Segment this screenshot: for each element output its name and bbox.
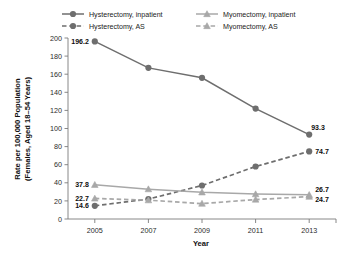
line-chart: Hysterectomy, inpatientMyomectomy, inpat…	[0, 0, 344, 260]
y-axis-tick-label: 0	[58, 215, 62, 224]
y-axis-tick-label: 80	[54, 142, 62, 151]
y-axis-tick-label: 120	[50, 106, 62, 115]
legend-marker-circle-icon	[70, 11, 76, 17]
y-axis-tick-label: 60	[54, 160, 62, 169]
data-point-label: 26.7	[315, 186, 329, 193]
series-data-point	[253, 105, 259, 111]
x-axis-tick-label: 2009	[194, 226, 210, 235]
x-axis-title: Year	[193, 239, 209, 248]
y-axis-title-line1: Rate per 100,000 Population	[13, 78, 22, 180]
data-point-label: 74.7	[315, 148, 329, 155]
legend-item-label: Hysterectomy, AS	[89, 23, 145, 31]
y-axis-tick-label: 160	[50, 70, 62, 79]
y-axis-tick-label: 140	[50, 88, 62, 97]
legend-item-label: Hysterectomy, inpatient	[89, 11, 163, 19]
x-axis-tick-label: 2005	[87, 226, 103, 235]
y-axis-title-line2: (Females, Aged 18–54 Years)	[23, 77, 32, 181]
series-data-point	[306, 148, 312, 154]
data-point-label: 14.6	[75, 202, 89, 209]
legend-item-label: Myomectomy, AS	[223, 23, 278, 31]
series-data-point	[92, 38, 98, 44]
series-data-point	[145, 65, 151, 71]
series-data-point	[253, 163, 259, 169]
data-point-label: 196.2	[71, 38, 89, 45]
x-axis-tick-label: 2013	[301, 226, 317, 235]
series-data-point	[199, 75, 205, 81]
y-axis-tick-label: 20	[54, 197, 62, 206]
x-axis-tick-label: 2007	[140, 226, 156, 235]
data-point-label: 24.7	[315, 196, 329, 203]
series-data-point	[306, 131, 312, 137]
legend-marker-circle-icon	[70, 23, 76, 29]
chart-container: Hysterectomy, inpatientMyomectomy, inpat…	[0, 0, 344, 260]
y-axis-tick-label: 180	[50, 52, 62, 61]
data-point-label: 93.3	[311, 124, 325, 131]
x-axis-tick-label: 2011	[248, 226, 263, 235]
series-data-point	[92, 203, 98, 209]
y-axis-tick-label: 40	[54, 178, 62, 187]
series-data-point	[199, 182, 205, 188]
y-axis-tick-label: 200	[50, 34, 62, 43]
y-axis-tick-label: 100	[50, 124, 62, 133]
data-point-label: 22.7	[75, 195, 89, 202]
legend-item-label: Myomectomy, inpatient	[223, 11, 295, 19]
data-point-label: 37.8	[75, 181, 89, 188]
